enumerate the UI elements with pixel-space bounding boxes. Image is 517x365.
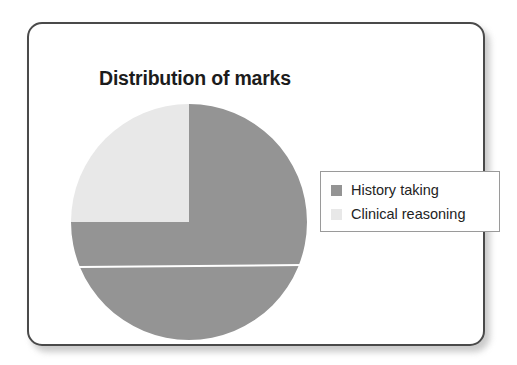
pie-svg: [71, 104, 307, 340]
legend-item-clinical-reasoning: Clinical reasoning: [331, 203, 499, 226]
legend-label-clinical-reasoning: Clinical reasoning: [351, 207, 465, 222]
pie-slice-clinical-reasoning: [71, 104, 189, 222]
pie-chart-figure: Distribution of marks History taking Cli…: [0, 0, 517, 365]
legend-swatch-clinical-reasoning: [331, 209, 342, 220]
legend-item-history-taking: History taking: [331, 179, 499, 202]
legend-label-history-taking: History taking: [351, 183, 439, 198]
chart-title: Distribution of marks: [99, 67, 291, 90]
pie-chart: [71, 104, 307, 340]
chart-card: Distribution of marks History taking Cli…: [27, 22, 485, 346]
legend-swatch-history-taking: [331, 185, 342, 196]
chart-legend: History taking Clinical reasoning: [320, 171, 500, 232]
